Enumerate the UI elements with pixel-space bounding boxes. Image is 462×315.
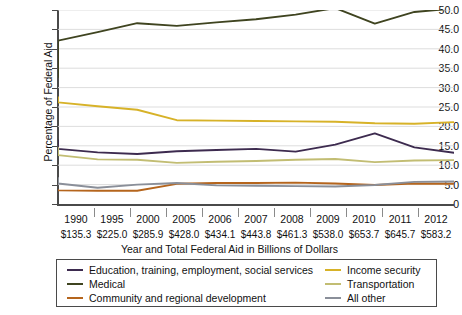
x-tick-separator — [166, 208, 167, 217]
x-tick-separator — [382, 208, 383, 217]
legend-color-swatch — [325, 297, 341, 300]
x-axis-line — [57, 204, 454, 206]
legend-label: Education, training, employment, social … — [89, 265, 313, 276]
chart-legend: Education, training, employment, social … — [56, 259, 437, 307]
legend-label: Medical — [89, 279, 125, 290]
legend-label: Transportation — [347, 279, 414, 290]
legend-color-swatch — [67, 283, 83, 286]
series-line — [58, 133, 454, 154]
legend-label: All other — [347, 293, 386, 304]
legend-item[interactable]: Transportation — [325, 277, 435, 291]
series-line — [58, 97, 454, 123]
legend-color-swatch — [325, 283, 341, 286]
x-tick-separator — [130, 208, 131, 217]
legend-item[interactable]: All other — [325, 291, 435, 305]
x-tick-separator — [274, 208, 275, 217]
legend-item[interactable]: Medical — [67, 277, 317, 291]
x-tick-label-amount: $583.2 — [410, 229, 462, 241]
legend-item[interactable]: Community and regional development — [67, 291, 317, 305]
x-tick-separator — [418, 208, 419, 217]
x-tick-separator — [202, 208, 203, 217]
x-tick-separator — [310, 208, 311, 217]
plot-svg — [58, 10, 454, 204]
series-line — [58, 148, 454, 163]
legend-column-left: Education, training, employment, social … — [67, 263, 317, 305]
series-line — [58, 10, 454, 77]
legend-label: Community and regional development — [89, 293, 266, 304]
x-axis-title: Year and Total Federal Aid in Billions o… — [0, 243, 459, 255]
y-axis-title: Percentage of Federal Aid — [42, 2, 54, 202]
plot-area — [58, 10, 454, 204]
x-tick-separator — [94, 208, 95, 217]
x-tick-separator — [238, 208, 239, 217]
legend-color-swatch — [67, 269, 83, 272]
legend-item[interactable]: Education, training, employment, social … — [67, 263, 317, 277]
x-tick-separator — [346, 208, 347, 217]
legend-label: Income security — [347, 265, 421, 276]
legend-color-swatch — [325, 269, 341, 272]
legend-color-swatch — [67, 297, 83, 300]
legend-item[interactable]: Income security — [325, 263, 435, 277]
legend-column-right: Income securityTransportationAll other — [325, 263, 435, 305]
